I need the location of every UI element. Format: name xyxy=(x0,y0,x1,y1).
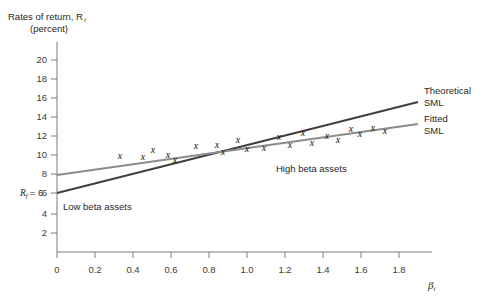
y-tick-label-16: 16 xyxy=(36,92,47,103)
y-tick-label-10: 10 xyxy=(36,149,47,160)
scatter-point: x xyxy=(172,154,178,165)
scatter-point: x xyxy=(261,142,267,153)
legend-theoretical-sml-line1: Theoretical xyxy=(424,85,471,96)
y-axis-ticks xyxy=(51,60,57,233)
theoretical-sml-line xyxy=(57,102,418,193)
scatter-point: x xyxy=(220,146,226,157)
y-tick-label-12: 12 xyxy=(36,130,47,141)
legend-theoretical-sml-line2: SML xyxy=(424,97,444,108)
scatter-point: x xyxy=(150,144,156,155)
chart-container: Rates of return, Ri (percent) 2 4 6 8 10… xyxy=(0,0,490,306)
legend-fitted-sml-line1: Fitted xyxy=(424,113,448,124)
annotation-low-beta-assets: Low beta assets xyxy=(63,201,132,212)
y-tick-label-14: 14 xyxy=(36,111,47,122)
x-tick-label-1-8: 1.8 xyxy=(392,264,405,275)
y-axis-tick-labels: 2 4 6 8 10 12 14 16 18 20 xyxy=(36,54,47,238)
legend-fitted-sml-line2: SML xyxy=(424,125,444,136)
scatter-point: x xyxy=(214,139,220,150)
x-tick-label-1-2: 1.2 xyxy=(278,264,291,275)
y-tick-label-2: 2 xyxy=(42,227,47,238)
scatter-point: x xyxy=(117,150,123,161)
scatter-point: x xyxy=(309,137,315,148)
risk-free-rate-label: Rf= 6 xyxy=(19,187,43,200)
scatter-point: x xyxy=(348,123,354,134)
scatter-point: x xyxy=(300,127,306,138)
scatter-point: x xyxy=(244,143,250,154)
scatter-point: x xyxy=(165,149,171,160)
annotation-high-beta-assets: High beta assets xyxy=(276,163,347,174)
scatter-point: x xyxy=(235,134,241,145)
y-axis-title-line2: (percent) xyxy=(30,23,68,34)
scatter-point: x xyxy=(370,122,376,133)
x-tick-label-0-2: 0.2 xyxy=(88,264,101,275)
y-tick-label-20: 20 xyxy=(36,54,47,65)
x-tick-label-0-8: 0.8 xyxy=(202,264,215,275)
y-tick-label-4: 4 xyxy=(42,208,47,219)
sml-scatter-chart: Rates of return, Ri (percent) 2 4 6 8 10… xyxy=(0,0,490,306)
x-axis-ticks xyxy=(57,252,399,258)
x-axis-title: βi xyxy=(427,279,435,293)
x-tick-label-1-4: 1.4 xyxy=(316,264,329,275)
scatter-point: x xyxy=(193,140,199,151)
y-tick-label-8: 8 xyxy=(42,168,47,179)
scatter-point: x xyxy=(324,130,330,141)
x-tick-label-0: 0 xyxy=(54,264,59,275)
fitted-sml-line xyxy=(57,124,418,175)
x-axis-tick-labels: 0 0.2 0.4 0.6 0.8 1.0 1.2 1.4 1.6 1.8 xyxy=(54,264,405,275)
scatter-point: x xyxy=(140,151,146,162)
scatter-point: x xyxy=(382,125,388,136)
scatter-point: x xyxy=(287,139,293,150)
x-tick-label-1-6: 1.6 xyxy=(354,264,367,275)
scatter-point: x xyxy=(357,128,363,139)
scatter-point: x xyxy=(335,134,341,145)
x-tick-label-1-0: 1.0 xyxy=(240,264,253,275)
scatter-point: x xyxy=(276,131,282,142)
x-tick-label-0-6: 0.6 xyxy=(164,264,177,275)
y-tick-label-18: 18 xyxy=(36,73,47,84)
x-tick-label-0-4: 0.4 xyxy=(126,264,139,275)
